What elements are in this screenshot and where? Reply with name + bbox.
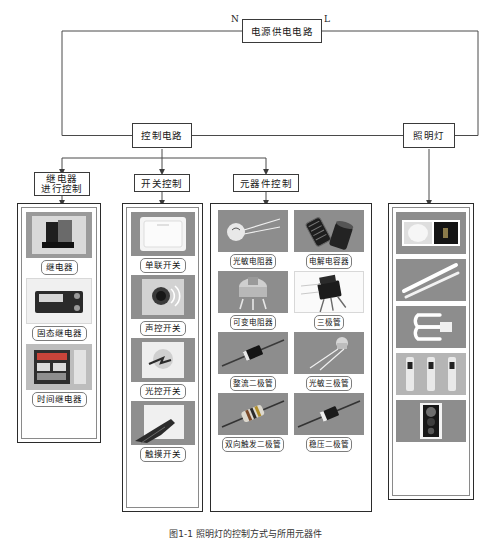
list-item[interactable]: 声控开关 [131, 275, 195, 336]
list-item[interactable]: 固态继电器 [26, 278, 92, 341]
lamp-panel-photo [396, 212, 466, 254]
control-circuit-label: 控制电路 [141, 130, 183, 141]
list-item-label: 触摸开关 [140, 447, 186, 462]
diagram-canvas: 电源供电电路 N L 控制电路 照明灯 继电器 进行控制 开关控制 元器件控制 [0, 0, 491, 541]
branch-header-switch-label: 开关控制 [141, 178, 183, 189]
list-item[interactable]: 单联开关 [131, 212, 195, 273]
power-supply-label: 电源供电电路 [251, 26, 313, 37]
branch-header-component: 元器件控制 [233, 174, 299, 192]
time-relay-photo [26, 344, 92, 390]
panel-component-grid: 光敏电阻器 [215, 208, 367, 507]
branch-header-switch: 开关控制 [134, 174, 190, 192]
electrolytic-capacitor-photo [294, 210, 364, 252]
lamp-box: 照明灯 [403, 123, 455, 148]
wire-label-l: L [324, 14, 330, 24]
list-item[interactable]: 整流二极管 [217, 332, 289, 391]
list-item[interactable] [396, 306, 466, 348]
sound-switch-photo [131, 275, 195, 319]
list-item-label: 固态继电器 [32, 326, 87, 341]
list-item[interactable] [396, 212, 466, 254]
list-item[interactable]: 三极管 [293, 271, 365, 330]
panel-switch-inner: 单联开关 声控开关 [126, 207, 199, 508]
list-item-label: 继电器 [41, 260, 78, 275]
wire-label-n: N [231, 14, 239, 24]
transistor-photo [294, 271, 364, 313]
list-item[interactable]: 继电器 [26, 212, 92, 275]
list-item[interactable]: 光敏三极管 [293, 332, 365, 391]
list-item[interactable]: 光敏电阻器 [217, 210, 289, 269]
power-supply-box: 电源供电电路 [242, 19, 322, 43]
light-switch-photo [131, 338, 195, 382]
list-item-label: 单联开关 [140, 258, 186, 273]
solid-state-relay-photo [26, 278, 92, 324]
list-item-label: 稳压二极管 [306, 437, 352, 452]
traffic-light-photo [396, 400, 466, 442]
lamp-box-label: 照明灯 [413, 130, 444, 141]
list-item-label: 时间继电器 [32, 392, 87, 407]
list-item[interactable]: 可变电阻器 [217, 271, 289, 330]
panel-lamp [388, 203, 474, 500]
relay-photo [26, 212, 92, 258]
branch-header-relay: 继电器 进行控制 [34, 172, 90, 196]
panel-lamp-inner [392, 207, 470, 496]
list-item[interactable]: 触摸开关 [131, 401, 195, 462]
panel-component: 光敏电阻器 [210, 203, 372, 512]
list-item[interactable]: 稳压二极管 [293, 393, 365, 452]
panel-relay-inner: 继电器 固态继电器 [21, 207, 97, 439]
rectifier-diode-photo [218, 332, 288, 374]
list-item-label: 三极管 [314, 315, 344, 330]
touch-switch-photo [131, 401, 195, 445]
list-item-label: 整流二极管 [230, 376, 276, 391]
single-switch-photo [131, 212, 195, 256]
diac-photo [218, 393, 288, 435]
list-item[interactable] [396, 400, 466, 442]
list-item[interactable] [396, 259, 466, 301]
list-item-label: 光控开关 [140, 384, 186, 399]
list-item[interactable]: 时间继电器 [26, 344, 92, 407]
panel-switch: 单联开关 声控开关 [122, 203, 203, 512]
branch-header-relay-line2: 进行控制 [41, 184, 83, 195]
list-item[interactable]: 电解电容器 [293, 210, 365, 269]
variable-resistor-photo [218, 271, 288, 313]
control-circuit-box: 控制电路 [132, 123, 192, 148]
figure-caption: 图1-1 照明灯的控制方式与所用元器件 [0, 527, 491, 540]
list-item-label: 光敏电阻器 [230, 254, 276, 269]
list-item-label: 电解电容器 [306, 254, 352, 269]
zener-diode-photo [294, 393, 364, 435]
list-item[interactable]: 双向触发二极管 [217, 393, 289, 452]
list-item-label: 光敏三极管 [306, 376, 352, 391]
energy-saving-lamp-photo [396, 306, 466, 348]
fluorescent-tube-photo [396, 259, 466, 301]
list-item-label: 声控开关 [140, 321, 186, 336]
list-item-label: 双向触发二极管 [222, 437, 284, 452]
branch-header-component-label: 元器件控制 [240, 178, 292, 189]
list-item[interactable] [396, 353, 466, 395]
panel-relay: 继电器 固态继电器 [17, 203, 101, 443]
phototransistor-photo [294, 332, 364, 374]
photoresistor-photo [218, 210, 288, 252]
list-item-label: 可变电阻器 [230, 315, 276, 330]
led-tube-row-photo [396, 353, 466, 395]
list-item[interactable]: 光控开关 [131, 338, 195, 399]
